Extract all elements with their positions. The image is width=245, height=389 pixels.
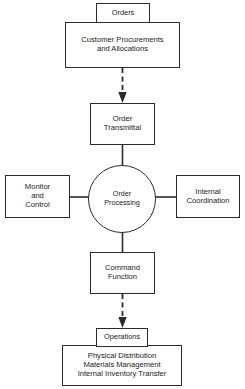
- node-operations: Operations: [96, 328, 148, 347]
- node-monitor-and-control: Monitor and Control: [5, 175, 70, 218]
- node-order-processing: Order Processing: [88, 165, 156, 233]
- node-command-function: Command Function: [90, 252, 155, 294]
- node-orders-label: Orders: [112, 9, 135, 18]
- node-operations-detail: Physical Distribution Materials Manageme…: [62, 345, 182, 386]
- node-monitor-and-control-line3: Control: [25, 201, 49, 210]
- node-order-transmittal-line2: Transmittal: [104, 124, 141, 133]
- node-internal-coordination: Internal Coordination: [176, 175, 240, 218]
- node-order-processing-line2: Processing: [104, 199, 140, 208]
- connector-command-to-operations: [118, 294, 126, 328]
- connector-customer-to-transmittal: [118, 68, 126, 103]
- node-operations-label: Operations: [104, 333, 140, 342]
- node-command-function-line2: Function: [108, 273, 137, 282]
- node-internal-coordination-line2: Coordination: [186, 197, 229, 206]
- node-order-transmittal: Order Transmittal: [90, 103, 155, 145]
- node-customer-procurements-line2: and Allocations: [97, 45, 148, 54]
- order-processing-diagram: Orders Customer Procurements and Allocat…: [0, 0, 245, 389]
- node-customer-procurements: Customer Procurements and Allocations: [65, 22, 180, 68]
- node-orders: Orders: [96, 3, 150, 23]
- node-operations-detail-line3: Internal Inventory Transfer: [78, 370, 167, 379]
